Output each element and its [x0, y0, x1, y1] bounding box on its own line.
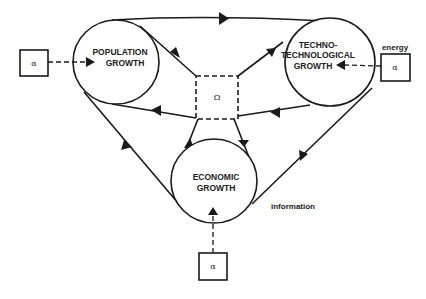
edge-economic-to-population	[84, 92, 178, 203]
energy-label: energy	[382, 43, 409, 52]
population-label-line1: POPULATION	[92, 47, 147, 57]
edge-omega-to-techno	[238, 42, 283, 76]
population-label-line2: GROWTH	[106, 58, 145, 68]
arrowhead-icon	[151, 105, 161, 116]
arrowhead-icon	[270, 107, 280, 118]
alpha-symbol-left: α	[31, 59, 37, 68]
techno-label-line3: GROWTH	[294, 61, 333, 71]
edge-population-to-techno	[112, 17, 325, 21]
alpha-symbol-right: α	[392, 63, 398, 72]
techno-label-line2: TECHNOLOGICAL	[281, 50, 355, 60]
arrowhead-icon	[238, 140, 249, 147]
economic-label-line1: ECONOMIC	[193, 172, 240, 182]
arrowhead-icon	[266, 48, 276, 57]
growth-feedback-diagram: Ω POPULATION GROWTH TECHNO- TECHNOLOGICA…	[0, 0, 426, 299]
information-label: information	[271, 202, 315, 211]
edge-techno-to-economic	[252, 88, 372, 204]
alpha-symbol-bottom: α	[210, 262, 216, 271]
economic-label-line2: GROWTH	[197, 183, 236, 193]
techno-label-line1: TECHNO-	[299, 40, 338, 50]
arrowhead-icon	[219, 12, 229, 25]
omega-symbol: Ω	[214, 93, 221, 102]
